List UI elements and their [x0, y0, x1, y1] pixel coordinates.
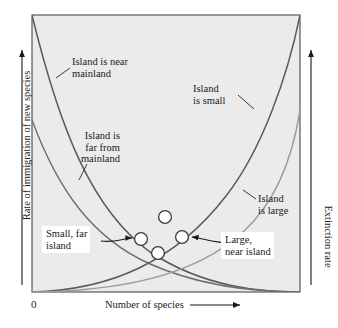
callout-large-near-island: Large, near island: [221, 232, 274, 259]
y-axis-left-label: Rate of immigration of new species: [21, 71, 32, 221]
x-axis-origin-tick-label: 0: [31, 298, 37, 310]
curve-label-island-small: Island is small: [193, 83, 225, 106]
island-biogeography-figure: Island is near mainland Island is small …: [0, 0, 338, 328]
curve-label-island-large: Island is large: [258, 193, 288, 216]
equilibrium-point-large-far: [152, 247, 165, 260]
y-axis-right-label: Extinction rate: [323, 177, 334, 297]
callout-small-far-island: Small, far island: [42, 226, 90, 253]
equilibrium-point-large-near: [176, 231, 189, 244]
curve-label-far-mainland: Island is far from mainland: [42, 130, 120, 165]
curve-label-near-mainland: Island is near mainland: [72, 56, 128, 79]
equilibrium-point-small-far: [135, 233, 148, 246]
equilibrium-point-small-near: [159, 211, 172, 224]
x-axis-label: Number of species: [105, 299, 184, 310]
